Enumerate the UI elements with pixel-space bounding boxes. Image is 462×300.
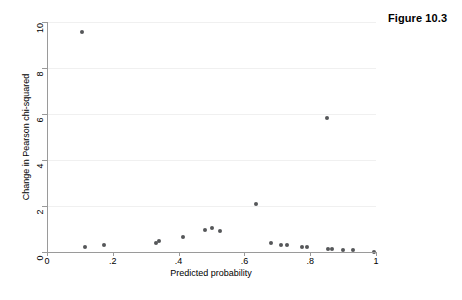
y-tick-label: 10 (35, 21, 45, 35)
figure-caption: Figure 10.3 (388, 12, 447, 24)
y-tick-label: 4 (35, 159, 45, 173)
data-point (102, 243, 106, 247)
data-point (300, 245, 304, 249)
gridline (47, 160, 376, 161)
data-point (203, 228, 207, 232)
data-point (269, 241, 273, 245)
x-axis-line (47, 252, 376, 253)
data-point (279, 243, 283, 247)
data-point (80, 30, 84, 34)
y-axis-line (47, 22, 48, 252)
plot-area (47, 22, 376, 252)
gridline (47, 68, 376, 69)
data-point (325, 116, 329, 120)
data-point (210, 226, 214, 230)
gridline (47, 22, 376, 23)
y-axis-title: Change in Pearson chi-squared (21, 74, 31, 201)
x-tick-label: 1 (373, 256, 378, 266)
data-point (305, 245, 309, 249)
gridline (47, 206, 376, 207)
x-tick-label: .2 (109, 256, 117, 266)
data-point (181, 235, 185, 239)
x-tick-label: .6 (241, 256, 249, 266)
figure-root: Figure 10.3 0246810 0.2.4.6.81 Change in… (0, 0, 462, 300)
y-tick-label: 8 (35, 67, 45, 81)
data-point (285, 243, 289, 247)
data-point (83, 245, 87, 249)
gridline (47, 114, 376, 115)
data-point (218, 229, 222, 233)
x-tick-label: .8 (306, 256, 314, 266)
data-point (157, 239, 161, 243)
y-tick-label: 6 (35, 113, 45, 127)
x-axis-title: Predicted probability (170, 268, 252, 278)
data-point (330, 247, 334, 251)
x-tick-label: .4 (175, 256, 183, 266)
y-tick-label: 2 (35, 205, 45, 219)
x-tick-label: 0 (44, 256, 49, 266)
scatter-plot-graph: 0246810 0.2.4.6.81 Change in Pearson chi… (0, 0, 380, 300)
data-point (254, 202, 258, 206)
